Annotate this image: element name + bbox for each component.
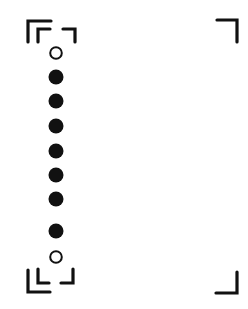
filled-circle-dot xyxy=(49,144,64,159)
filled-circle-dot xyxy=(49,70,64,85)
corner-bracket-top-left-small xyxy=(63,29,75,42)
filled-circle-dot xyxy=(49,119,64,134)
corner-bracket-top-right xyxy=(217,20,237,42)
open-circle-dot xyxy=(50,251,62,263)
open-circle-dot xyxy=(50,47,62,59)
corner-bracket-bottom-left-small xyxy=(61,269,73,283)
corner-bracket-top-left-inner xyxy=(38,29,50,42)
filled-circle-dot xyxy=(49,224,64,239)
filled-circle-dot xyxy=(49,168,64,183)
corner-bracket-bottom-right xyxy=(216,272,237,293)
diagram-canvas xyxy=(0,0,248,309)
filled-circle-dot xyxy=(49,94,64,109)
filled-circle-dot xyxy=(49,192,64,207)
dot-column-diagram xyxy=(0,0,248,309)
corner-bracket-bottom-left-inner xyxy=(38,269,49,283)
